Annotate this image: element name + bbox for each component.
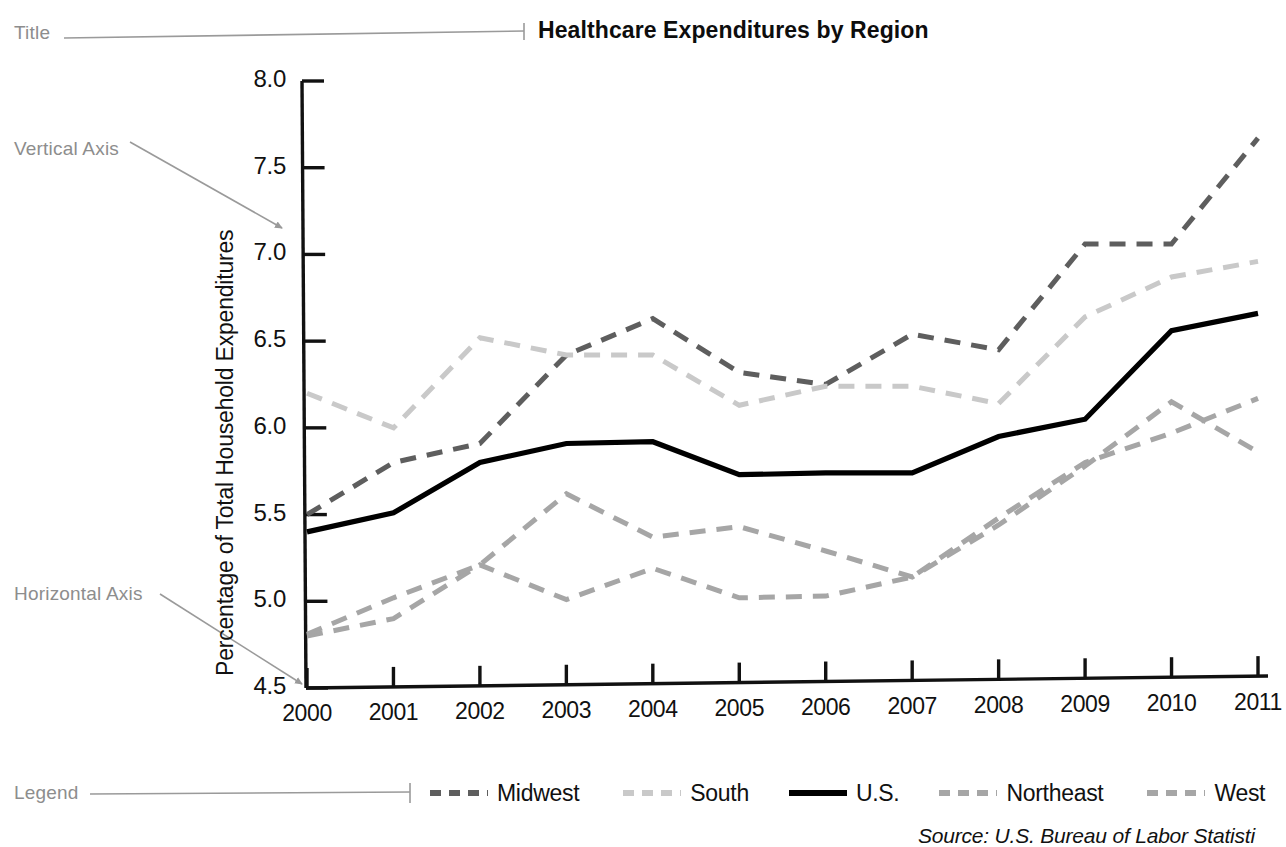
x-tick-label: 2003: [528, 697, 604, 724]
legend-swatch-northeast: [939, 790, 997, 796]
y-tick-label: 7.0: [226, 238, 286, 266]
y-tick-label: 6.5: [226, 325, 286, 353]
axis-lines: [302, 81, 1268, 688]
y-tick-label: 4.5: [226, 672, 286, 700]
x-tick-label: 2006: [788, 694, 864, 721]
y-tick-label: 6.0: [226, 412, 286, 440]
legend-label-northeast: Northeast: [1006, 780, 1103, 807]
legend-label-west: West: [1214, 780, 1265, 807]
legend-item-south[interactable]: South: [623, 780, 749, 807]
x-tick-label: 2001: [355, 699, 431, 726]
chart-legend: MidwestSouthU.S.NortheastWest: [430, 778, 1265, 808]
plot-area: [0, 0, 1276, 760]
series-line-northeast: [307, 398, 1258, 636]
legend-swatch-west: [1147, 790, 1205, 796]
x-tick-label: 2009: [1047, 691, 1123, 718]
legend-label-south: South: [690, 780, 749, 807]
legend-swatch-midwest: [430, 790, 488, 796]
legend-leader-line: [88, 778, 420, 808]
y-tick-label: 7.5: [226, 152, 286, 180]
legend-swatch-south: [623, 790, 681, 796]
series-line-west: [307, 402, 1258, 634]
legend-item-west[interactable]: West: [1147, 780, 1265, 807]
x-tick-label: 2011: [1220, 689, 1286, 716]
legend-label-midwest: Midwest: [497, 780, 579, 807]
series-line-south: [307, 261, 1258, 428]
x-tick-label: 2000: [269, 700, 345, 727]
x-axis-line: [306, 676, 1268, 688]
x-tick-label: 2008: [961, 692, 1037, 719]
legend-label-us: U.S.: [856, 780, 900, 807]
x-tick-label: 2004: [615, 696, 691, 723]
x-tick-label: 2002: [442, 698, 518, 725]
series-line-us: [307, 313, 1258, 532]
legend-item-midwest[interactable]: Midwest: [430, 780, 579, 807]
x-tick-label: 2007: [874, 693, 950, 720]
legend-item-us[interactable]: U.S.: [789, 780, 900, 807]
legend-callout-label: Legend: [14, 782, 79, 804]
x-tick-label: 2010: [1134, 690, 1210, 717]
series-line-midwest: [307, 138, 1258, 514]
legend-swatch-us: [789, 790, 847, 796]
y-tick-label: 5.5: [226, 499, 286, 527]
source-note: Source: U.S. Bureau of Labor Statisti: [918, 824, 1255, 847]
x-tick-label: 2005: [701, 695, 777, 722]
y-tick-label: 5.0: [226, 585, 286, 613]
y-axis-line: [302, 81, 306, 688]
data-series-layer: [307, 138, 1258, 636]
legend-item-northeast[interactable]: Northeast: [939, 780, 1103, 807]
y-tick-label: 8.0: [226, 65, 286, 93]
